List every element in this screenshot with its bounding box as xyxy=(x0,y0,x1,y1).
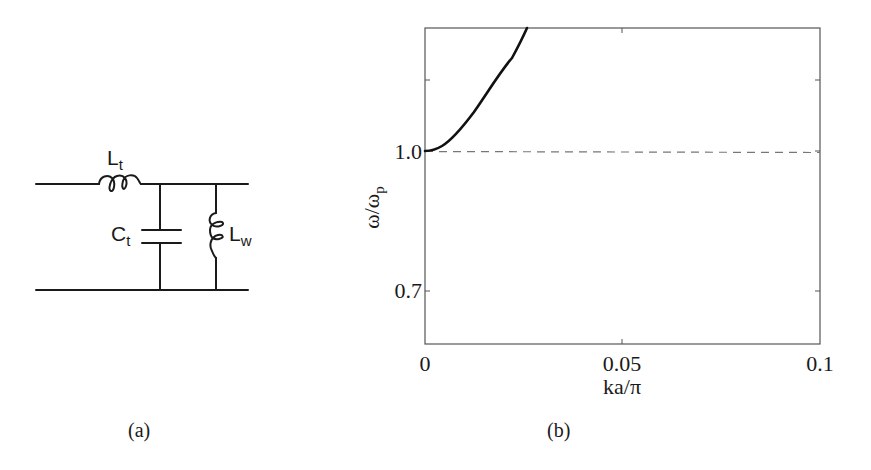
caption-b: (b) xyxy=(547,419,570,442)
plot-area xyxy=(0,0,871,470)
dispersion-curve xyxy=(425,28,527,151)
figure: Lt Ct Lw (a) 1.0 0.7 0 0.05 0.1 xyxy=(0,0,871,470)
reference-dashed-line xyxy=(425,152,820,153)
xtick-label-0: 0 xyxy=(385,351,465,377)
y-axis-label: ω/ωp xyxy=(359,168,388,248)
plot-frame xyxy=(425,28,820,344)
ytick-label-1.0: 1.0 xyxy=(362,139,422,165)
x-axis-label: ka/π xyxy=(592,374,652,400)
ytick-label-0.7: 0.7 xyxy=(362,278,422,304)
xtick-label-0.1: 0.1 xyxy=(780,351,860,377)
